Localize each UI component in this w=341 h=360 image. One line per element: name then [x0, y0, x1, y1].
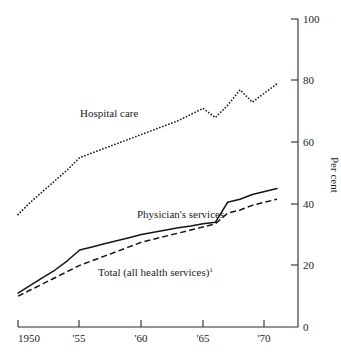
series-label-hospital-care: Hospital care: [80, 107, 138, 119]
y-axis-tick-labels: 100 80 60 40 20 0: [303, 13, 320, 333]
y-axis-ticks: [291, 19, 298, 265]
x-axis-tick-labels: 1950 '55 '60 '65 '70: [18, 332, 271, 344]
chart-canvas: 100 80 60 40 20 0 1950 '55 '60 '65 '70 P…: [0, 0, 341, 360]
series-label-total-footnote: 1: [209, 266, 213, 274]
y-axis-title: Per cent: [329, 157, 341, 193]
series-labels-group: Hospital care Physician's services Total…: [80, 107, 224, 279]
x-axis-ticks: [18, 320, 264, 327]
x-tick-label-1955: '55: [73, 332, 86, 344]
chart-figure: 100 80 60 40 20 0 1950 '55 '60 '65 '70 P…: [0, 0, 341, 360]
x-tick-label-1960: '60: [135, 332, 148, 344]
series-group: [18, 84, 277, 297]
axes-group: 100 80 60 40 20 0 1950 '55 '60 '65 '70 P…: [18, 13, 341, 344]
y-tick-label-80: 80: [303, 74, 315, 86]
y-tick-label-100: 100: [303, 13, 320, 25]
series-label-total: Total (all health services)1: [98, 266, 213, 279]
series-line-hospital-care: [18, 84, 277, 215]
series-label-physicians-services: Physician's services: [137, 208, 224, 220]
axis-lines: [18, 19, 298, 327]
x-tick-label-1965: '65: [197, 332, 210, 344]
series-label-total-text: Total (all health services): [98, 266, 210, 279]
y-tick-label-60: 60: [303, 136, 315, 148]
y-tick-label-20: 20: [303, 259, 315, 271]
y-tick-label-0: 0: [303, 321, 309, 333]
x-tick-label-1950: 1950: [18, 332, 41, 344]
x-tick-label-1970: '70: [258, 332, 271, 344]
y-tick-label-40: 40: [303, 198, 315, 210]
